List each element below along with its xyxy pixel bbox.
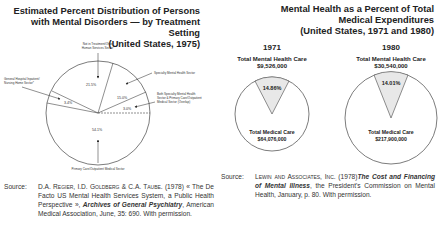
pie-1975: 21.5% 15.0% 3.0% 3.4% 54.1% Not in Treat… (4, 42, 202, 171)
source-text: D.A. Regier, I.D. Goldberg & C.A. Taube.… (38, 182, 214, 218)
source-text: Lewin and Associates, Inc. (1978)The Cos… (255, 172, 435, 199)
value-general-hospital: 3.4% (64, 101, 73, 105)
total-value-1980: $217,900,000 (375, 136, 407, 142)
left-source-citation: Source: D.A. Regier, I.D. Goldberg & C.A… (4, 182, 216, 232)
source-year: (1978) (336, 173, 358, 180)
total-label-1980: Total Medical Care (368, 129, 414, 135)
right-source-citation: Source: Lewin and Associates, Inc. (1978… (221, 172, 437, 212)
label-primary: Primary Care/Outpatient Medical Sector (71, 167, 124, 171)
pct-1980: 14.01% (382, 80, 401, 86)
source-key: Source: (4, 182, 27, 191)
label-not-in-treatment-2: Human Services Sector* (82, 46, 116, 50)
source-authors: D.A. Regier, I.D. Goldberg & C.A. Taube. (38, 183, 163, 190)
label-both-3: Medical Sector (Overlap) (157, 100, 190, 104)
mh-label-1980: Total Mental Health Care (356, 56, 426, 62)
total-value-1971: $64,076,000 (258, 136, 287, 142)
mh-label-1971: Total Mental Health Care (237, 56, 307, 62)
pct-1971: 14.86% (263, 85, 282, 91)
value-both: 3.0% (123, 107, 132, 111)
source-journal: Archives of General Psychiatry (83, 201, 182, 208)
pie-1980: 1980 Total Mental Health Care $30,540,00… (345, 43, 437, 164)
label-specialty: Specialty Mental Health Sector (154, 71, 195, 75)
source-authors: Lewin and Associates, Inc. (255, 173, 336, 180)
value-specialty: 15.0% (117, 96, 128, 100)
mh-value-1971: $9,526,000 (257, 63, 288, 69)
total-label-1971: Total Medical Care (249, 129, 295, 135)
mh-value-1980: $30,540,000 (374, 63, 408, 69)
label-general-hospital-2: Nursing Home Sector* (4, 81, 35, 85)
year-1980: 1980 (382, 43, 400, 52)
year-1971: 1971 (263, 43, 281, 52)
source-key: Source: (221, 172, 244, 181)
source-year: (1978) (163, 183, 184, 190)
pie-1971: 1971 Total Mental Health Care $9,526,000… (235, 43, 309, 151)
value-not-in-treatment: 21.5% (86, 83, 97, 87)
value-primary: 54.1% (92, 128, 103, 132)
